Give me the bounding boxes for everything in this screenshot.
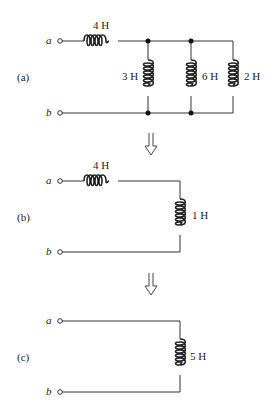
inductor-2h-label: 2 H [244, 70, 260, 82]
terminal-a[interactable] [58, 39, 63, 44]
inductor-1h [176, 199, 186, 225]
terminal-a-label: a [46, 314, 52, 326]
terminal-a[interactable] [58, 179, 63, 184]
node-dot [146, 39, 151, 44]
inductor-6h [187, 60, 197, 86]
inductor-6h-label: 6 H [202, 70, 218, 82]
inductor-5h [176, 339, 186, 365]
circuit-c: (c) a b 5 H [17, 314, 206, 397]
node-dot [146, 111, 151, 116]
label-a: (a) [17, 71, 30, 84]
terminal-b[interactable] [58, 390, 63, 395]
inductor-3h-label: 3 H [122, 70, 138, 82]
down-arrow-2-icon [145, 273, 157, 295]
terminal-a-label: a [46, 34, 52, 46]
node-dot [189, 39, 194, 44]
inductor-1h-label: 1 H [192, 209, 208, 221]
label-c: (c) [17, 351, 30, 364]
terminal-b-label: b [46, 245, 52, 257]
inductor-3h [144, 60, 154, 86]
circuit-b: (b) a b 4 H 1 H [17, 159, 208, 257]
inductor-4h-label: 4 H [93, 19, 109, 31]
terminal-b[interactable] [58, 111, 63, 116]
terminal-a[interactable] [58, 319, 63, 324]
terminal-b[interactable] [58, 250, 63, 255]
inductor-4h-series [84, 175, 109, 186]
inductor-4h-label: 4 H [93, 159, 109, 171]
down-arrow-1-icon [145, 133, 157, 155]
terminal-b-label: b [46, 385, 52, 397]
inductor-2h [229, 60, 239, 86]
terminal-a-label: a [46, 174, 52, 186]
circuit-a: (a) a b 4 H 3 H 6 H 2 H [17, 19, 260, 118]
circuit-diagram: (a) a b 4 H 3 H 6 H 2 H [0, 0, 269, 414]
terminal-b-label: b [46, 106, 52, 118]
node-dot [189, 111, 194, 116]
inductor-5h-label: 5 H [190, 350, 206, 362]
label-b: (b) [17, 211, 30, 224]
inductor-4h-series [84, 35, 109, 46]
